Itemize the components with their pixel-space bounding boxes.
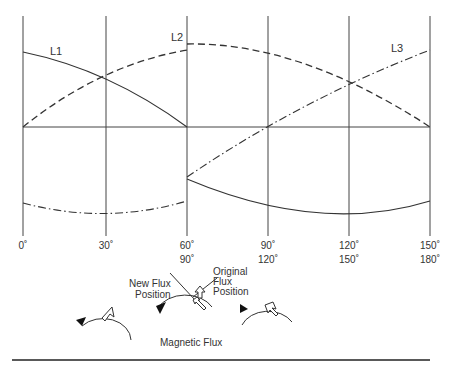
l1-curve <box>23 52 187 127</box>
new-flux-leader <box>170 273 195 300</box>
l1-lower-curve <box>187 179 430 214</box>
tick-alt-90: 90˚ <box>167 254 207 266</box>
label-l2: L2 <box>171 31 183 43</box>
flux-arc-1 <box>82 319 131 340</box>
flux-arc-3 <box>242 311 292 325</box>
tick-alt-120: 120˚ <box>248 254 288 266</box>
tick-0: 0˚ <box>3 240 43 252</box>
l3-curve-rise <box>187 50 430 177</box>
label-l1: L1 <box>50 45 62 57</box>
arrowhead-1 <box>76 317 86 326</box>
tick-30: 30˚ <box>86 240 126 252</box>
original-flux-label: Original Flux Position <box>213 267 249 297</box>
l2-curve-rise <box>23 50 187 127</box>
caption: Magnetic Flux <box>160 337 222 349</box>
l2-curve-fall <box>187 44 430 127</box>
waveform-diagram <box>0 0 452 367</box>
new-flux-label: New Flux Position <box>129 278 171 300</box>
flux-arrow-new <box>193 297 206 310</box>
tick-60: 60˚ <box>167 240 207 252</box>
tick-alt-180: 180˚ <box>410 254 450 266</box>
arrowhead-3 <box>240 304 248 313</box>
label-l3: L3 <box>391 42 403 54</box>
flux-arrow-3 <box>265 302 278 316</box>
tick-120: 120˚ <box>329 240 369 252</box>
tick-90: 90˚ <box>248 240 288 252</box>
l3-curve-lower <box>23 201 187 214</box>
tick-150: 150˚ <box>410 240 450 252</box>
tick-alt-150: 150˚ <box>329 254 369 266</box>
